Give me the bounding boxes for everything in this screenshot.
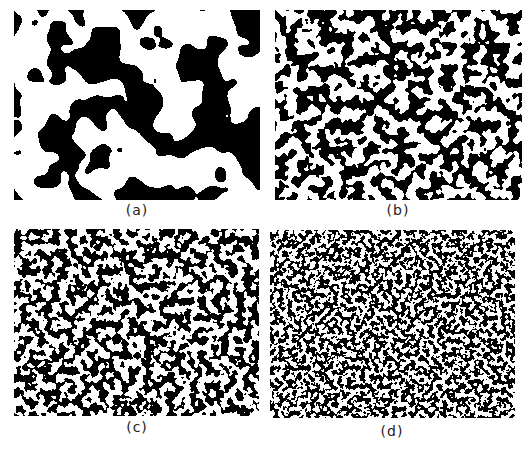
panel-a-label: (a) xyxy=(107,202,167,218)
panel-b-texture xyxy=(275,10,522,200)
panel-d-texture xyxy=(270,230,515,418)
panel-b-label: (b) xyxy=(368,202,428,218)
panel-d-label: (d) xyxy=(362,423,422,439)
panel-c-texture xyxy=(14,229,259,416)
panel-a-texture xyxy=(14,10,260,200)
panel-c-label: (c) xyxy=(107,419,167,435)
